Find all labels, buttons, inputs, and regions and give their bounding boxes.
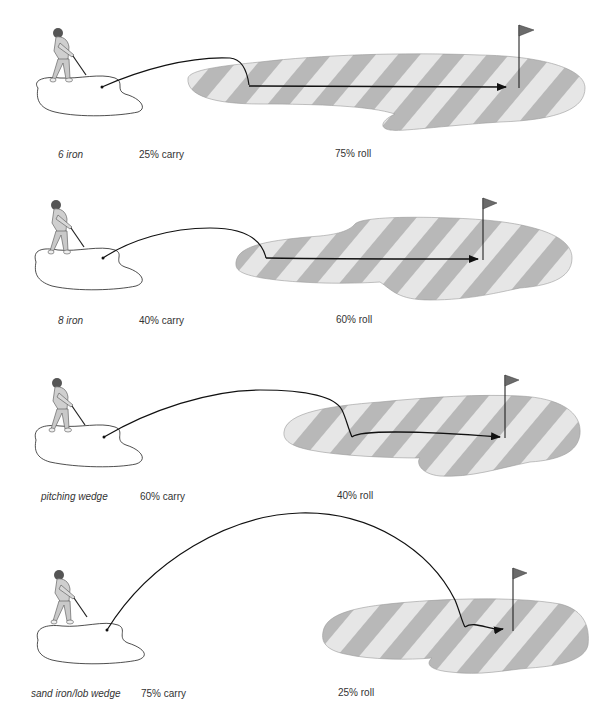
carry-label: 75% carry: [141, 688, 186, 699]
green-area: [188, 54, 585, 131]
green-area: [323, 599, 589, 673]
panel-6-iron: [37, 25, 585, 130]
flag-icon: [519, 25, 534, 36]
flag-icon: [505, 375, 519, 386]
roll-label: 75% roll: [335, 148, 371, 159]
club-label: 6 iron: [58, 149, 83, 160]
golfer-icon: [49, 378, 85, 432]
flag-icon: [483, 198, 497, 209]
club-label: 8 iron: [58, 315, 83, 326]
tee-area: [35, 248, 142, 290]
roll-label: 40% roll: [337, 490, 373, 501]
roll-arrow-icon: [249, 86, 506, 87]
carry-label: 25% carry: [139, 149, 184, 160]
carry-label: 40% carry: [139, 315, 184, 326]
panel-pitching-wedge: [35, 375, 580, 476]
shot-diagram: [0, 0, 593, 727]
tee-area: [37, 623, 144, 663]
carry-label: 60% carry: [140, 491, 185, 502]
golfer-icon: [48, 200, 84, 254]
roll-label: 25% roll: [338, 687, 374, 698]
flag-icon: [513, 568, 527, 579]
roll-label: 60% roll: [336, 314, 372, 325]
green-area: [284, 395, 580, 476]
club-label: pitching wedge: [41, 491, 108, 502]
golfer-icon: [51, 570, 87, 624]
panel-sand-iron-lob-wedge: [37, 513, 588, 673]
panel-8-iron: [35, 198, 572, 300]
club-label: sand iron/lob wedge: [31, 688, 121, 699]
golfer-icon: [50, 28, 86, 82]
